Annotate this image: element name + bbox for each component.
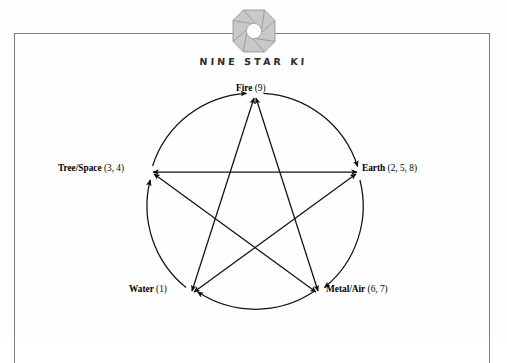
node-numbers-metal-air: (6, 7): [368, 284, 388, 294]
creative-cycle-arcs: [147, 93, 363, 309]
line-earth-water: [194, 174, 356, 292]
node-label-water: Water (1): [129, 285, 167, 294]
controlling-cycle-pentagram: [153, 98, 357, 292]
node-name-water: Water: [129, 284, 154, 294]
arc-fire-to-earth: [264, 93, 358, 166]
line-metal-tree: [154, 174, 316, 292]
node-name-fire: Fire: [236, 83, 252, 93]
node-numbers-water: (1): [156, 284, 167, 294]
line-fire-metal: [256, 98, 318, 291]
node-name-earth: Earth: [362, 163, 385, 173]
line-water-fire: [192, 98, 254, 291]
node-label-earth: Earth (2, 5, 8): [362, 164, 417, 173]
node-name-metal-air: Metal/Air: [326, 284, 365, 294]
node-name-tree-space: Tree/Space: [58, 163, 102, 173]
arc-earth-to-metal: [325, 180, 364, 288]
arc-metal-to-water: [198, 292, 314, 309]
node-label-fire: Fire (9): [236, 84, 266, 93]
node-numbers-fire: (9): [255, 83, 266, 93]
node-numbers-tree-space: (3, 4): [104, 163, 124, 173]
arc-water-to-tree: [147, 180, 186, 288]
node-numbers-earth: (2, 5, 8): [388, 163, 417, 173]
node-label-tree-space: Tree/Space (3, 4): [58, 164, 124, 173]
node-label-metal-air: Metal/Air (6, 7): [326, 285, 388, 294]
arc-tree-to-fire: [153, 93, 247, 166]
